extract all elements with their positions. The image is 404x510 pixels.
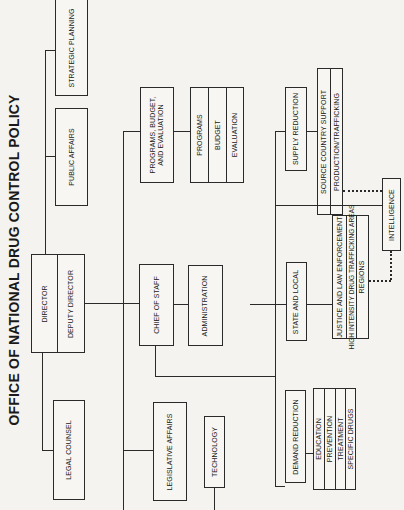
connector [250,304,276,305]
node-state-local-units[interactable]: JUSTICE AND LAW ENFORCEMENT HIGH INTENSI… [332,215,369,339]
node-director[interactable]: DIRECTOR DEPUTY DIRECTOR [31,254,85,353]
director-label: DIRECTOR [32,255,58,352]
connector [42,353,43,451]
connector [123,450,153,451]
unit-justice-law-enforcement: JUSTICE AND LAW ENFORCEMENT [333,216,346,338]
connector [45,156,55,157]
unit-source-country-support: SOURCE COUNTRY SUPPORT [318,69,330,214]
node-supply-units[interactable]: SOURCE COUNTRY SUPPORT PRODUCTION/TRAFFI… [317,68,343,215]
node-pbe-units[interactable]: PROGRAMS BUDGET EVALUATION [190,87,244,183]
connector [214,488,215,510]
connector [275,486,285,487]
connector [42,450,53,451]
dotted-link [343,190,382,192]
unit-hidta: HIGH INTENSITY DRUG TRAFFICKING AREAS [347,216,356,338]
unit-budget: BUDGET [209,88,226,182]
connector [275,131,285,132]
dotted-link [390,251,392,280]
chart-title: OFFICE OF NATIONAL DRUG CONTROL POLICY [2,20,26,500]
node-legislative-affairs[interactable]: LEGISLATIVE AFFAIRS [153,402,187,501]
deputy-director-label: DEPUTY DIRECTOR [58,255,84,352]
dotted-link [369,280,391,282]
connector [275,304,286,305]
node-strategic-planning[interactable]: STRATEGIC PLANNING [55,0,88,96]
connector [155,346,156,376]
connector [174,304,188,305]
unit-regions: REGIONS [357,216,368,338]
main-spine [123,131,124,510]
unit-education: EDUCATION [314,389,324,489]
node-state-and-local[interactable]: STATE AND LOCAL [286,262,307,341]
node-technology[interactable]: TECHNOLOGY [204,416,225,488]
node-supply-reduction[interactable]: SUPPLY REDUCTION [285,87,307,171]
node-administration[interactable]: ADMINISTRATION [188,265,223,346]
node-programs-budget-evaluation[interactable]: PROGRAMS, BUDGET,AND EVALUATION [140,87,174,183]
connector [85,303,139,304]
connector [174,131,190,132]
node-public-affairs[interactable]: PUBLIC AFFAIRS [55,108,88,206]
connector [45,50,46,255]
unit-evaluation: EVALUATION [227,88,244,182]
unit-specific-drugs: SPECIFIC DRUGS [346,389,356,489]
node-demand-reduction[interactable]: DEMAND REDUCTION [285,390,306,483]
node-chief-of-staff[interactable]: CHIEF OF STAFF [139,264,174,346]
node-legal-counsel[interactable]: LEGAL COUNSEL [53,400,85,500]
unit-treatment: TREATMENT [336,389,345,489]
connector [45,50,55,51]
unit-production-trafficking: PRODUCTION/TRAFFICKING [331,69,343,214]
right-trunk [275,131,276,487]
connector [307,131,317,132]
unit-programs: PROGRAMS [191,88,208,182]
connector [123,131,140,132]
connector [155,376,276,377]
connector [306,453,313,454]
node-demand-units[interactable]: EDUCATION PREVENTION TREATMENT SPECIFIC … [313,388,356,490]
node-intelligence[interactable]: INTELLIGENCE [382,178,401,251]
connector [307,304,332,305]
connector [275,205,382,206]
unit-prevention: PREVENTION [325,389,335,489]
